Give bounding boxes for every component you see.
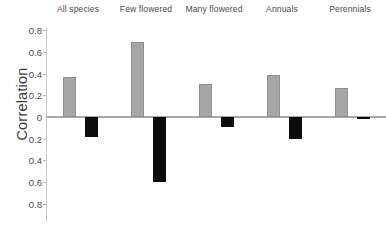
- y-axis-title: Correlation: [14, 44, 30, 164]
- y-tick-label: 0.4: [20, 68, 42, 79]
- y-tick-label: 0.6: [20, 46, 42, 57]
- y-tick-label: 0.4: [20, 155, 42, 166]
- bar: [289, 117, 302, 139]
- bar: [267, 75, 280, 117]
- y-tick-label: 0: [20, 112, 42, 123]
- y-tick-label: 0.2: [20, 133, 42, 144]
- correlation-bar-chart: All species Few flowered Many flowered A…: [0, 0, 386, 239]
- bar: [199, 84, 212, 117]
- plot-area: [46, 0, 386, 239]
- bar: [153, 117, 166, 182]
- y-tick-label: 0.6: [20, 177, 42, 188]
- y-tick-label: 0.2: [20, 90, 42, 101]
- bar: [85, 117, 98, 137]
- bar: [63, 77, 76, 117]
- bar: [131, 42, 144, 117]
- bar: [357, 117, 370, 119]
- y-tick-label: 0.8: [20, 25, 42, 36]
- y-tick-label: 0.8: [20, 198, 42, 209]
- bar: [335, 88, 348, 117]
- bar: [221, 117, 234, 127]
